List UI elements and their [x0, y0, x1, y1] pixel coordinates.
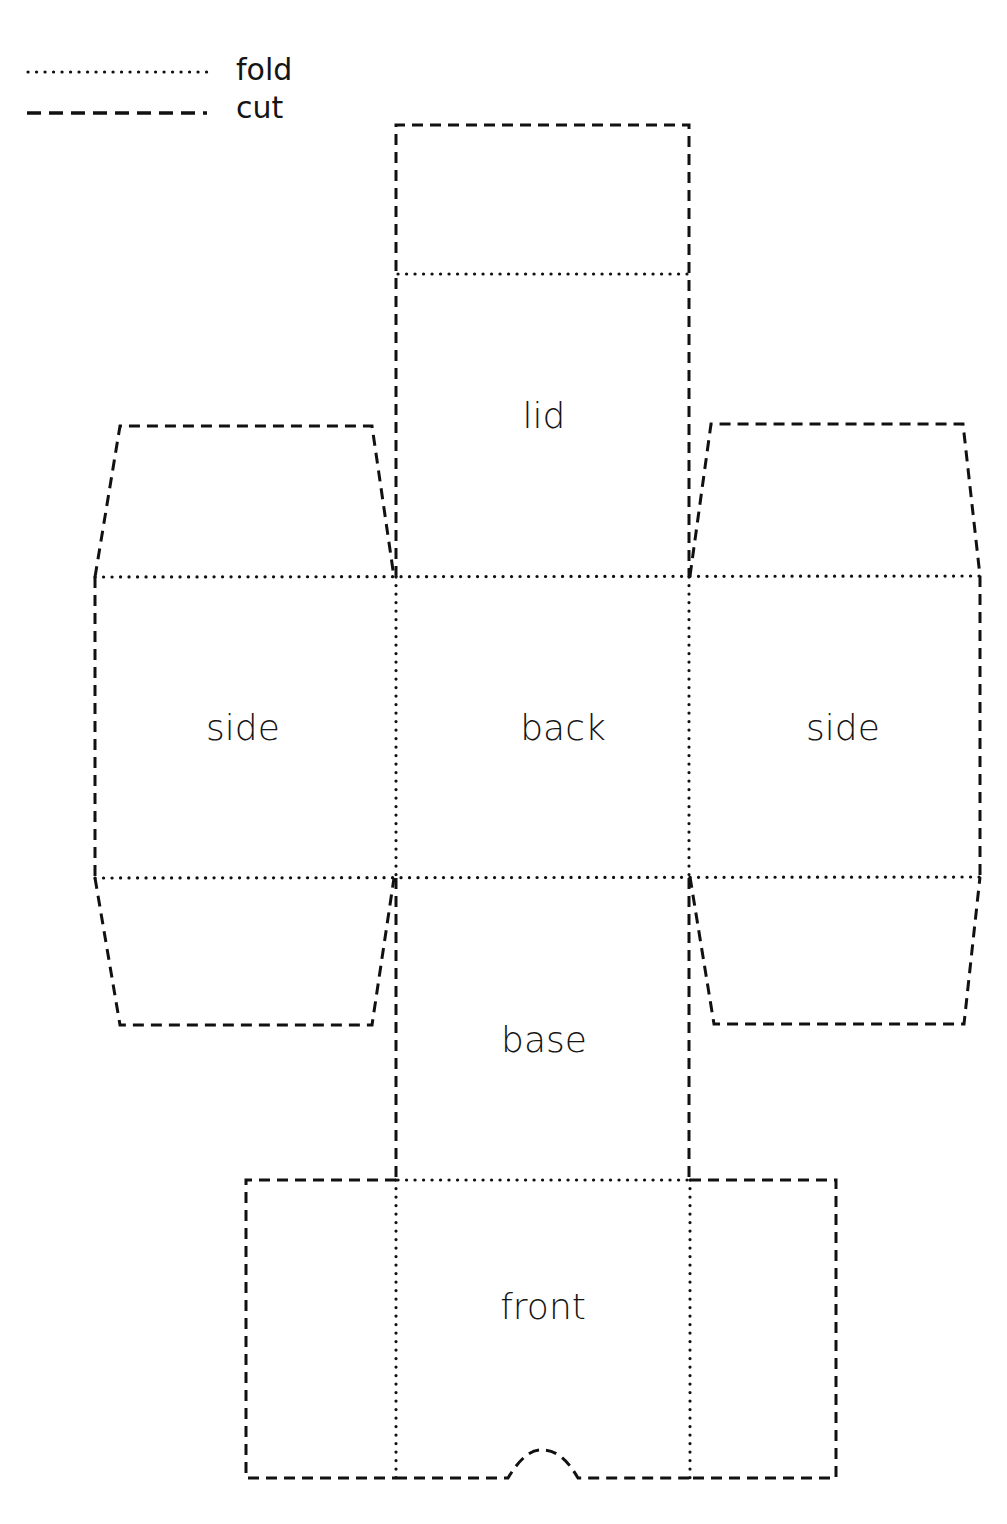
right-side-top-flap-cut — [690, 424, 980, 576]
legend-cut-label: cut — [236, 90, 284, 125]
front-label: front — [500, 1286, 586, 1327]
front-left-tab — [246, 1180, 396, 1478]
back-label: back — [520, 707, 606, 748]
front-left-tab-cut — [246, 1180, 396, 1478]
lid-label: lid — [523, 395, 566, 436]
back-base-fold — [95, 877, 980, 878]
front-right-tab — [690, 1180, 836, 1478]
lid-back-fold — [95, 576, 980, 577]
lid-flap-cut — [396, 125, 689, 577]
legend-fold-label: fold — [236, 52, 292, 87]
front-bottom-cut-with-notch — [396, 1450, 690, 1478]
right-side-bottom-flap-cut — [690, 877, 980, 1024]
center-column — [95, 125, 980, 1478]
base-label: base — [501, 1019, 587, 1060]
side-right-label: side — [806, 707, 880, 748]
left-side-top-flap-cut — [95, 426, 394, 577]
front-right-tab-cut — [690, 1180, 836, 1478]
left-side-bottom-flap-cut — [95, 878, 394, 1025]
side-left-label: side — [206, 707, 280, 748]
box-template-diagram: fold cut — [0, 0, 1007, 1524]
legend: fold cut — [27, 52, 292, 125]
